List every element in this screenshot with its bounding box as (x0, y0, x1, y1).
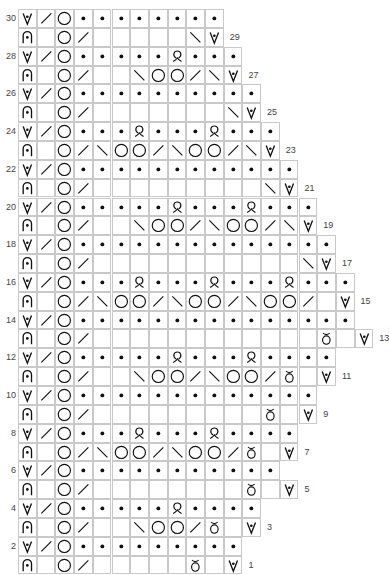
yarn-over-icon (186, 141, 205, 160)
row-number-right: 29 (230, 28, 240, 47)
yarn-over-icon (55, 84, 74, 103)
purl-dot-icon (74, 84, 93, 103)
yarn-over-icon (186, 292, 205, 311)
purl-dot-icon (112, 198, 131, 217)
knit-blank-icon (168, 179, 187, 198)
right-slant-decrease-icon (37, 424, 56, 443)
yarn-over-icon (224, 216, 243, 235)
right-slant-decrease-icon (74, 367, 93, 386)
knit-blank-icon (299, 329, 318, 348)
purl-dot-icon (299, 311, 318, 330)
knit-blank-icon (186, 254, 205, 273)
purl-dot-icon (205, 9, 224, 28)
purl-dot-icon (112, 424, 131, 443)
purl-dot-icon (261, 198, 280, 217)
purl-dot-icon (112, 348, 131, 367)
knit-blank-icon (149, 329, 168, 348)
right-slant-decrease-icon (74, 556, 93, 575)
yarn-over-icon (112, 443, 131, 462)
knit-blank-icon (93, 405, 112, 424)
purl-dot-icon (74, 537, 93, 556)
purl-dot-icon (205, 47, 224, 66)
purl-dot-icon (186, 461, 205, 480)
knit-blank-icon (130, 405, 149, 424)
purl-dot-icon (242, 386, 261, 405)
purl-dot-icon (130, 499, 149, 518)
knit-blank-icon (37, 518, 56, 537)
twisted-loop-icon (205, 424, 224, 443)
purl-dot-icon (224, 386, 243, 405)
purl-dot-icon (149, 47, 168, 66)
slip-stitch-v-with-dot-icon (224, 556, 243, 575)
row-number-right: 25 (267, 103, 277, 122)
right-slant-decrease-icon (299, 292, 318, 311)
purl-dot-icon (299, 198, 318, 217)
purl-dot-icon (93, 84, 112, 103)
purl-dot-icon (130, 386, 149, 405)
knit-blank-icon (205, 480, 224, 499)
yarn-over-icon (112, 141, 131, 160)
twisted-loop-icon (242, 198, 261, 217)
right-slant-decrease-icon (37, 537, 56, 556)
purl-dot-icon (186, 273, 205, 292)
left-slant-decrease-icon (93, 292, 112, 311)
yarn-over-icon (242, 216, 261, 235)
purl-dot-icon (224, 499, 243, 518)
knit-blank-icon (37, 103, 56, 122)
purl-dot-icon (112, 235, 131, 254)
right-slant-decrease-icon (74, 443, 93, 462)
purl-dot-icon (280, 311, 299, 330)
bobble-loop-icon (280, 367, 299, 386)
twisted-loop-icon (130, 273, 149, 292)
row-number-left: 20 (0, 198, 16, 217)
knit-blank-icon (130, 556, 149, 575)
arch-with-dot-icon (18, 518, 37, 537)
yarn-over-icon (55, 66, 74, 85)
purl-dot-icon (186, 198, 205, 217)
knit-blank-icon (37, 556, 56, 575)
knit-blank-icon (112, 66, 131, 85)
knit-blank-icon (130, 254, 149, 273)
right-slant-decrease-icon (37, 461, 56, 480)
purl-dot-icon (130, 160, 149, 179)
arch-with-dot-icon (18, 179, 37, 198)
slip-stitch-v-with-dot-icon (336, 292, 355, 311)
purl-dot-icon (261, 386, 280, 405)
slip-stitch-v-with-dot-icon (205, 28, 224, 47)
slip-stitch-v-with-dot-icon (18, 84, 37, 103)
purl-dot-icon (74, 386, 93, 405)
purl-dot-icon (205, 537, 224, 556)
knit-blank-icon (130, 28, 149, 47)
purl-dot-icon (149, 424, 168, 443)
purl-dot-icon (224, 122, 243, 141)
purl-dot-icon (74, 311, 93, 330)
purl-dot-icon (112, 84, 131, 103)
row-number-right: 7 (305, 443, 310, 462)
purl-dot-icon (205, 160, 224, 179)
purl-dot-icon (336, 311, 355, 330)
knit-blank-icon (205, 405, 224, 424)
purl-dot-icon (168, 122, 187, 141)
purl-dot-icon (242, 84, 261, 103)
right-slant-decrease-icon (74, 405, 93, 424)
purl-dot-icon (130, 461, 149, 480)
purl-dot-icon (168, 537, 187, 556)
right-slant-decrease-icon (37, 311, 56, 330)
knit-blank-icon (186, 179, 205, 198)
purl-dot-icon (205, 348, 224, 367)
knit-blank-icon (93, 254, 112, 273)
knit-blank-icon (93, 329, 112, 348)
purl-dot-icon (112, 537, 131, 556)
purl-dot-icon (149, 84, 168, 103)
right-slant-decrease-icon (74, 103, 93, 122)
row-number-right: 9 (323, 405, 328, 424)
row-number-right: 23 (286, 141, 296, 160)
knit-blank-icon (242, 254, 261, 273)
knit-blank-icon (93, 103, 112, 122)
yarn-over-icon (55, 424, 74, 443)
purl-dot-icon (130, 537, 149, 556)
twisted-loop-icon (168, 348, 187, 367)
purl-dot-icon (93, 499, 112, 518)
knit-blank-icon (261, 443, 280, 462)
purl-dot-icon (224, 348, 243, 367)
